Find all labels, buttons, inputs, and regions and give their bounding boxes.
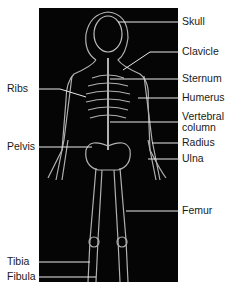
label-column: column [182,122,216,133]
label-ulna: Ulna [182,153,204,164]
label-tibia: Tibia [7,256,29,267]
label-radius: Radius [182,137,215,148]
label-fibula: Fibula [7,271,36,282]
label-sternum: Sternum [182,73,222,84]
label-skull: Skull [182,16,205,27]
label-ribs: Ribs [7,83,28,94]
label-femur: Femur [182,205,212,216]
label-pelvis: Pelvis [7,141,35,152]
label-clavicle: Clavicle [182,46,219,57]
label-humerus: Humerus [182,92,225,103]
